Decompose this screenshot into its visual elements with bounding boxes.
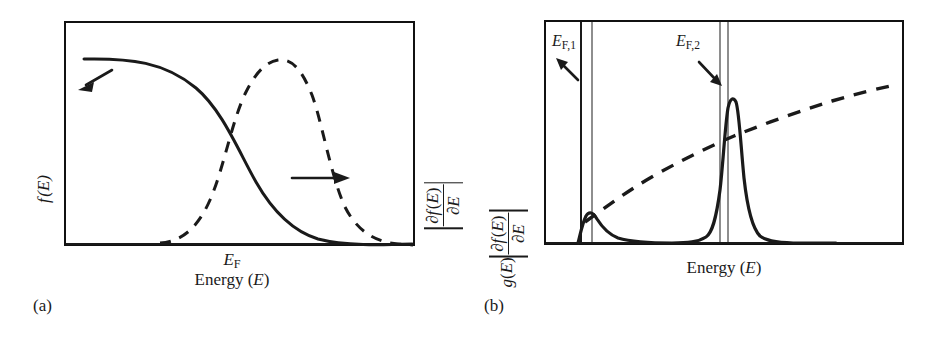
panel-b-arrow-ef2	[699, 62, 722, 86]
panel-b-label-ef1-E: E	[552, 32, 562, 49]
panel-b-x-axis-label: Energy (E)	[664, 258, 784, 278]
panel-b-caption-text: (b)	[484, 296, 504, 315]
panel-b-label-ef2: EF,2	[676, 32, 700, 51]
panel-b-label-ef1-sub: F,1	[562, 39, 576, 51]
panel-b-x-axis-var: (E)	[740, 258, 762, 277]
figure-root: f (E) EF	[0, 0, 933, 341]
panel-b-x-axis-word: Energy	[687, 258, 736, 277]
panel-b-arrow-ef1	[556, 58, 578, 80]
panel-b-label-ef2-sub: F,2	[686, 39, 700, 51]
panel-b-label-ef2-E: E	[676, 32, 686, 49]
panel-b-curves	[0, 0, 933, 341]
panel-b-caption: (b)	[484, 296, 504, 316]
panel-b-label-ef1: EF,1	[552, 32, 576, 51]
